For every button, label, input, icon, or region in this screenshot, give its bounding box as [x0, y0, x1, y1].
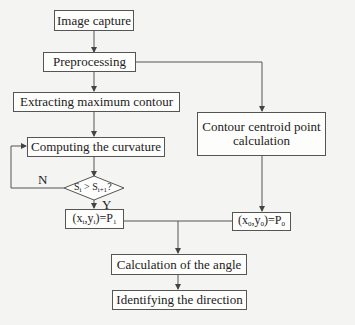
node-image-capture: Image capture	[54, 10, 134, 31]
decision-text: Si > Si+1?	[74, 181, 112, 194]
node-label: calculation	[233, 134, 290, 148]
node-label: Identifying the direction	[116, 293, 242, 307]
node-label: Computing the curvature	[31, 140, 161, 154]
node-extract-contour: Extracting maximum contour	[13, 92, 180, 112]
node-label: Image capture	[57, 14, 131, 28]
node-label: Preprocessing	[53, 55, 126, 69]
node-p1: (xi,yi)=P1	[65, 209, 124, 229]
node-label: (xi,yi)=P1	[73, 212, 117, 226]
node-direction: Identifying the direction	[112, 290, 247, 310]
node-label: Calculation of the angle	[117, 258, 242, 272]
no-label: N	[38, 172, 47, 188]
node-preprocessing: Preprocessing	[43, 52, 136, 72]
node-curvature: Computing the curvature	[27, 137, 165, 157]
node-label: (x0,y0)=P0	[238, 214, 285, 228]
node-p0: (x0,y0)=P0	[232, 212, 291, 231]
node-label: Extracting maximum contour	[20, 95, 173, 109]
connector-lines	[0, 0, 355, 325]
node-centroid: Contour centroid point calculation	[197, 112, 326, 156]
node-label: Contour centroid point	[202, 120, 320, 134]
node-angle: Calculation of the angle	[111, 254, 247, 275]
